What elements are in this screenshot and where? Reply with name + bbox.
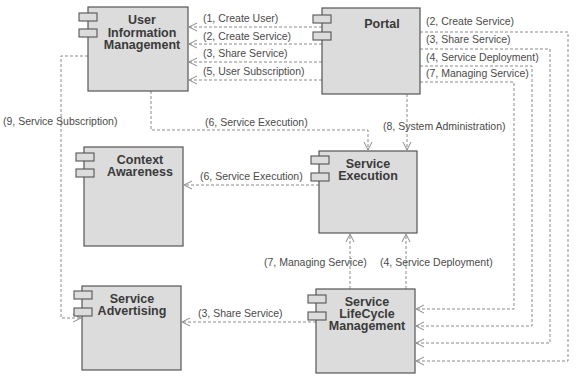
component-icon: [311, 173, 329, 181]
label-create-service: (2, Create Service): [203, 30, 291, 42]
dep-portal-lcm-managing-service: (7, Managing Service): [416, 67, 529, 313]
label-service-execution: (6, Service Execution): [205, 116, 308, 128]
dep-portal-uim-user-subscription: (5, User Subscription): [189, 65, 322, 84]
component-icon: [313, 32, 331, 40]
component-service-execution[interactable]: Service Execution: [311, 151, 417, 233]
component-icon: [76, 169, 94, 177]
label-share-service-2: (3, Share Service): [426, 33, 511, 45]
label-user-subscription: (5, User Subscription): [203, 65, 305, 77]
dep-lcm-adv-share-service: (3, Share Service): [182, 307, 316, 326]
component-user-information-management[interactable]: User Information Management: [79, 7, 188, 91]
label-share-service: (3, Share Service): [203, 47, 288, 59]
component-title: Management: [329, 319, 406, 333]
dep-portal-lcm-share-service: (3, Share Service): [416, 33, 550, 347]
label-share-service-3: (3, Share Service): [198, 307, 283, 319]
dep-lcm-exec-service-deployment: (4, Service Deployment): [380, 234, 493, 289]
label-managing-service-2: (7, Managing Service): [264, 256, 367, 268]
component-service-advertising[interactable]: Service Advertising: [74, 286, 181, 370]
component-title: Advertising: [98, 304, 167, 318]
component-title: Awareness: [107, 165, 173, 179]
component-icon: [79, 29, 97, 37]
component-icon: [74, 291, 92, 299]
component-diagram: (1, Create User) (2, Create Service) (3,…: [0, 0, 578, 382]
component-service-lifecycle-management[interactable]: Service LifeCycle Management: [308, 289, 415, 373]
dep-exec-ctx-service-execution: (6, Service Execution): [184, 170, 319, 189]
label-create-service-2: (2, Create Service): [426, 15, 514, 27]
dep-portal-lcm-service-deployment: (4, Service Deployment): [416, 51, 539, 330]
component-icon: [308, 312, 326, 320]
label-service-deployment-2: (4, Service Deployment): [380, 256, 493, 268]
component-portal[interactable]: Portal: [313, 8, 420, 94]
component-icon: [74, 308, 92, 316]
label-create-user: (1, Create User): [203, 12, 278, 24]
dep-portal-uim-create-service: (2, Create Service): [189, 30, 322, 48]
label-service-deployment: (4, Service Deployment): [426, 51, 539, 63]
label-managing-service: (7, Managing Service): [426, 67, 529, 79]
component-title: Execution: [338, 169, 398, 183]
component-icon: [311, 156, 329, 164]
component-context-awareness[interactable]: Context Awareness: [76, 147, 183, 246]
dep-portal-uim-create-user: (1, Create User): [189, 12, 322, 31]
label-service-subscription: (9, Service Subscription): [3, 115, 117, 127]
dep-uim-exec-service-execution: (6, Service Execution): [151, 91, 372, 150]
dep-portal-exec-system-admin: (8, System Administration): [383, 94, 506, 150]
dep-lcm-exec-managing-service: (7, Managing Service): [264, 234, 367, 289]
component-icon: [76, 153, 94, 161]
component-icon: [313, 15, 331, 23]
label-system-administration: (8, System Administration): [383, 120, 506, 132]
component-icon: [308, 295, 326, 303]
label-service-execution-2: (6, Service Execution): [200, 170, 303, 182]
component-title: User: [128, 13, 156, 27]
component-title: Portal: [364, 17, 399, 31]
component-title: Management: [104, 38, 181, 52]
dep-portal-uim-share-service: (3, Share Service): [189, 47, 322, 66]
component-icon: [79, 13, 97, 21]
